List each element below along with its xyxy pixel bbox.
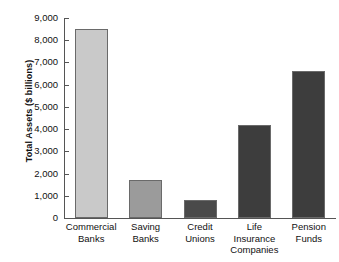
x-category-label-line: Funds [278, 233, 339, 245]
bar [184, 200, 217, 218]
bar [75, 29, 108, 218]
bar [129, 180, 162, 218]
bar [238, 125, 271, 218]
x-category-label-line: Banks [60, 233, 122, 245]
x-category-label-line: Banks [114, 233, 176, 245]
y-tick-label: 7,000 [12, 57, 58, 67]
bar [292, 71, 325, 218]
y-tick-label: 6,000 [12, 80, 58, 90]
y-tick-label: 2,000 [12, 169, 58, 179]
y-tick-label: 1,000 [12, 191, 58, 201]
x-axis-line [64, 218, 336, 219]
y-tick-label: 8,000 [12, 35, 58, 45]
x-category-label-line: Life [223, 221, 285, 233]
x-category-label: CreditUnions [169, 221, 231, 244]
x-category-label-line: Unions [169, 233, 231, 245]
x-category-label: PensionFunds [278, 221, 339, 244]
x-category-label-line: Saving [114, 221, 176, 233]
x-category-label: LifeInsuranceCompanies [223, 221, 285, 256]
y-tick-label: 9,000 [12, 13, 58, 23]
x-category-label-line: Credit [169, 221, 231, 233]
y-tick-label: 0 [12, 213, 58, 223]
x-category-label-line: Pension [278, 221, 339, 233]
x-category-label-line: Insurance [223, 233, 285, 245]
x-axis-category-labels: CommercialBanksSavingBanksCreditUnionsLi… [64, 221, 336, 262]
x-category-label: CommercialBanks [60, 221, 122, 244]
x-category-label-line: Commercial [60, 221, 122, 233]
y-tick-label: 5,000 [12, 102, 58, 112]
bar-chart: Total Assets ($ billions) 01,0002,0003,0… [0, 0, 339, 262]
bars-layer [64, 18, 336, 218]
y-tick-label: 4,000 [12, 124, 58, 134]
y-tick-mark [64, 218, 69, 219]
y-tick-label: 3,000 [12, 146, 58, 156]
x-category-label-line: Companies [223, 244, 285, 256]
x-category-label: SavingBanks [114, 221, 176, 244]
